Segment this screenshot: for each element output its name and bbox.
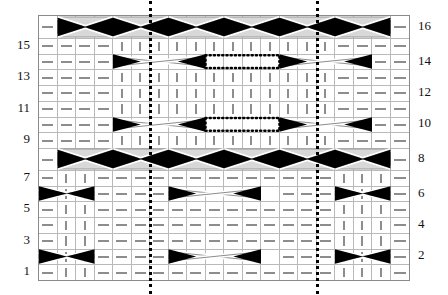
row-label-12: 12 [418, 85, 448, 99]
knit-symbol [195, 104, 197, 113]
chart-cell [206, 117, 225, 133]
chart-cell [58, 170, 77, 186]
purl-symbol [394, 159, 406, 161]
chart-cell [150, 132, 169, 148]
chart-cell [150, 186, 169, 202]
chart-cell [354, 117, 373, 133]
purl-symbol [42, 209, 53, 211]
chart-cell [298, 186, 317, 202]
chart-cell [317, 233, 336, 249]
chart-cell [391, 132, 410, 148]
knit-symbol [361, 189, 363, 198]
chart-cell [298, 69, 317, 85]
row-label-1: 1 [0, 264, 30, 278]
chart-cell [243, 264, 262, 280]
purl-symbol [227, 240, 238, 242]
purl-symbol [264, 240, 275, 242]
chart-cell [280, 201, 299, 217]
chart-cell [391, 85, 410, 101]
chart-cell [132, 101, 151, 117]
knit-symbol [287, 136, 289, 145]
chart-cell [187, 148, 206, 170]
chart-cell [335, 16, 354, 38]
knit-symbol [306, 42, 308, 51]
purl-symbol [116, 209, 127, 211]
chart-cell [261, 101, 280, 117]
purl-symbol [209, 272, 220, 274]
purl-symbol [394, 108, 406, 110]
purl-symbol [98, 61, 109, 63]
chart-cell [335, 170, 354, 186]
chart-cell [224, 148, 243, 170]
chart-cell [317, 54, 336, 70]
knit-symbol [380, 174, 382, 183]
purl-symbol [246, 177, 257, 179]
knit-symbol [232, 104, 234, 113]
chart-cell [58, 249, 77, 265]
chart-cell [261, 148, 280, 170]
chart-cell [243, 54, 262, 70]
chart-cell [187, 85, 206, 101]
chart-cell [95, 170, 114, 186]
purl-symbol [135, 209, 146, 211]
chart-cell [113, 264, 132, 280]
purl-symbol [264, 224, 275, 226]
chart-cell [243, 249, 262, 265]
purl-symbol [79, 77, 90, 79]
knit-symbol [343, 189, 345, 198]
knit-symbol [195, 89, 197, 98]
chart-cell [354, 201, 373, 217]
chart-cell [298, 117, 317, 133]
knit-symbol [176, 89, 178, 98]
chart-cell [243, 233, 262, 249]
chart-cell [95, 85, 114, 101]
chart-cell [39, 101, 58, 117]
purl-symbol [61, 61, 72, 63]
knit-symbol [250, 73, 252, 82]
chart-cell [39, 186, 58, 202]
chart-cell [132, 148, 151, 170]
chart-cell [58, 69, 77, 85]
chart-cell [150, 249, 169, 265]
purl-symbol [116, 177, 127, 179]
chart-cell [317, 69, 336, 85]
purl-symbol [153, 240, 164, 242]
chart-cell [39, 249, 58, 265]
purl-symbol [42, 92, 53, 94]
chart-cell [391, 264, 410, 280]
chart-cell [298, 264, 317, 280]
chart-cell [113, 233, 132, 249]
chart-cell [169, 264, 188, 280]
row-label-4: 4 [418, 217, 448, 231]
chart-cell [335, 217, 354, 233]
chart-cell [261, 233, 280, 249]
chart-cell [224, 132, 243, 148]
chart-cell [280, 148, 299, 170]
row-label-9: 9 [0, 132, 30, 146]
chart-cell [354, 132, 373, 148]
chart-cell [76, 117, 95, 133]
knit-symbol [213, 136, 215, 145]
knit-symbol [306, 104, 308, 113]
chart-cell [169, 249, 188, 265]
chart-cell [335, 201, 354, 217]
chart-cell [39, 132, 58, 148]
chart-cell [58, 16, 77, 38]
purl-symbol [338, 124, 349, 126]
chart-cell [76, 69, 95, 85]
chart-cell [391, 117, 410, 133]
purl-symbol [61, 92, 72, 94]
purl-symbol [394, 61, 406, 63]
chart-cell [354, 170, 373, 186]
chart-cell [372, 85, 391, 101]
purl-symbol [42, 45, 53, 47]
purl-symbol [153, 256, 164, 258]
chart-cell [169, 186, 188, 202]
purl-symbol [98, 45, 109, 47]
knit-symbol [250, 42, 252, 51]
knit-symbol [158, 89, 160, 98]
chart-cell [58, 132, 77, 148]
knit-symbol [250, 136, 252, 145]
knit-symbol [361, 174, 363, 183]
purl-symbol [98, 224, 109, 226]
